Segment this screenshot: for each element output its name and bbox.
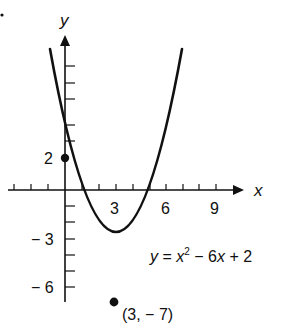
tick-label-y-m3: − 3 [31,231,54,248]
y-axis-arrow-icon [60,35,70,46]
vertex-point [110,298,119,307]
tick-label-x-3: 3 [110,200,119,217]
y-ticks [65,66,75,287]
tick-label-x-9: 9 [210,200,219,217]
x-ticks [14,184,216,190]
tick-label-y-m6: − 6 [31,279,54,296]
equation-label: y = x2 − 6x + 2 [149,246,252,265]
x-axis-arrow-icon [233,185,244,195]
stray-dot [0,13,3,16]
vertex-label: (3, − 7) [122,306,173,323]
tick-label-x-6: 6 [161,200,170,217]
parabola-chart: y x 3 6 9 2 − 3 − 6 (3, − 7) y = x2 − 6x… [0,0,297,327]
y-axis-label: y [59,11,70,30]
tick-label-y-2: 2 [44,150,53,167]
x-axis-label: x [253,181,263,200]
y-intercept-point [61,154,69,162]
